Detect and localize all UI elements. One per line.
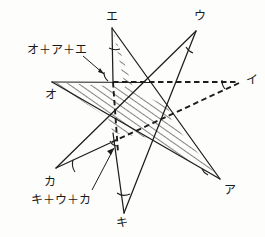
chord-o-i-solid-part: [52, 82, 152, 83]
star-figure: エ ウ イ ア キ カ オ オ＋ア＋エ キ＋ウ＋カ: [0, 0, 265, 237]
vertex-label-ka: カ: [44, 176, 56, 188]
vertex-label-i: イ: [246, 74, 258, 86]
vertex-label-ki: キ: [116, 217, 128, 229]
vertex-label-a: ア: [224, 184, 236, 196]
vertex-label-o: オ: [45, 89, 57, 101]
vertex-label-e: エ: [106, 11, 118, 23]
angle-arc-ka: [72, 160, 75, 172]
vertex-label-u: ウ: [194, 10, 206, 22]
chord-tail-to-ka: [56, 143, 110, 168]
leader-lines: [83, 56, 114, 190]
annotation-sum-bottom: キ＋ウ＋カ: [31, 194, 91, 206]
chord-i-ka-tail: [56, 143, 110, 168]
angle-arc-top-left: [104, 72, 108, 81]
leader-arrow-top: [98, 68, 104, 74]
angle-arc-ki: [117, 193, 130, 195]
leader-arrow-bottom: [107, 148, 114, 155]
annotation-sum-top: オ＋ア＋エ: [27, 44, 87, 56]
chord-e-ki-upper: [112, 28, 113, 82]
